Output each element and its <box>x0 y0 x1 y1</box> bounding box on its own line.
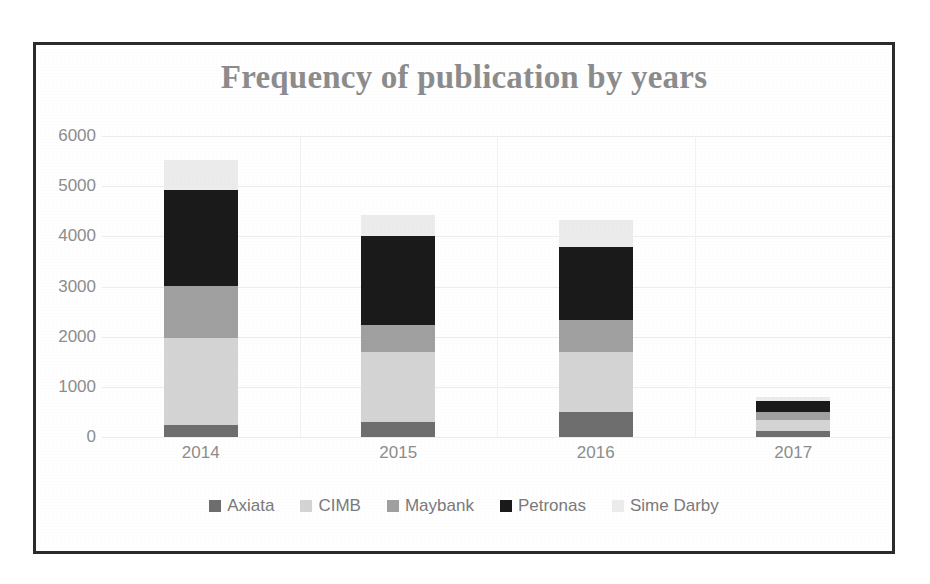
bar-segment-cimb[interactable] <box>559 352 633 412</box>
y-axis-tick-label: 0 <box>38 427 96 447</box>
bar-segment-cimb[interactable] <box>361 352 435 423</box>
bar-segment-sime-darby[interactable] <box>559 220 633 247</box>
legend-swatch-icon <box>387 500 399 512</box>
x-axis-tick-label: 2017 <box>733 443 853 463</box>
bar-segment-axiata[interactable] <box>164 425 238 437</box>
y-axis-tick-label: 5000 <box>38 176 96 196</box>
legend-item-sime-darby[interactable]: Sime Darby <box>612 496 719 516</box>
bar-group-2014[interactable] <box>164 160 238 437</box>
vertical-gridline <box>695 136 696 437</box>
legend-swatch-icon <box>300 500 312 512</box>
bar-segment-cimb[interactable] <box>756 420 830 432</box>
bar-segment-axiata[interactable] <box>756 431 830 437</box>
bar-group-2017[interactable] <box>756 397 830 437</box>
bar-segment-petronas[interactable] <box>756 401 830 412</box>
x-axis-tick-label: 2015 <box>338 443 458 463</box>
legend-label: Axiata <box>227 496 274 516</box>
y-axis-tick-label: 6000 <box>38 126 96 146</box>
chart-frame: Frequency of publication by years 010002… <box>33 42 895 554</box>
bar-group-2015[interactable] <box>361 215 435 437</box>
legend-label: CIMB <box>318 496 361 516</box>
bar-segment-sime-darby[interactable] <box>361 215 435 237</box>
bar-segment-maybank[interactable] <box>559 320 633 352</box>
x-axis-tick-label: 2014 <box>141 443 261 463</box>
legend-item-maybank[interactable]: Maybank <box>387 496 474 516</box>
y-axis-tick-label: 3000 <box>38 277 96 297</box>
y-axis-tick-label: 4000 <box>38 226 96 246</box>
legend-item-axiata[interactable]: Axiata <box>209 496 274 516</box>
legend-swatch-icon <box>500 500 512 512</box>
gridline <box>102 437 892 438</box>
bar-group-2016[interactable] <box>559 220 633 437</box>
vertical-gridline <box>300 136 301 437</box>
bar-segment-axiata[interactable] <box>559 412 633 437</box>
bar-segment-axiata[interactable] <box>361 422 435 437</box>
bar-segment-sime-darby[interactable] <box>164 160 238 190</box>
legend-label: Petronas <box>518 496 586 516</box>
legend-item-petronas[interactable]: Petronas <box>500 496 586 516</box>
bar-segment-maybank[interactable] <box>361 325 435 352</box>
bar-segment-cimb[interactable] <box>164 338 238 425</box>
vertical-gridline <box>497 136 498 437</box>
chart-legend: AxiataCIMBMaybankPetronasSime Darby <box>36 496 892 516</box>
y-axis-tick-label: 2000 <box>38 327 96 347</box>
legend-item-cimb[interactable]: CIMB <box>300 496 361 516</box>
y-axis: 0100020003000400050006000 <box>36 136 96 437</box>
legend-label: Maybank <box>405 496 474 516</box>
legend-swatch-icon <box>612 500 624 512</box>
chart-title: Frequency of publication by years <box>36 59 892 96</box>
y-axis-tick-label: 1000 <box>38 377 96 397</box>
bar-segment-petronas[interactable] <box>164 190 238 285</box>
gridline <box>102 136 892 137</box>
x-axis: 2014201520162017 <box>102 443 892 473</box>
legend-label: Sime Darby <box>630 496 719 516</box>
plot-area <box>102 136 892 437</box>
bar-segment-petronas[interactable] <box>361 236 435 324</box>
legend-swatch-icon <box>209 500 221 512</box>
bar-segment-maybank[interactable] <box>756 412 830 420</box>
bar-segment-maybank[interactable] <box>164 286 238 339</box>
x-axis-tick-label: 2016 <box>536 443 656 463</box>
bar-segment-petronas[interactable] <box>559 247 633 320</box>
